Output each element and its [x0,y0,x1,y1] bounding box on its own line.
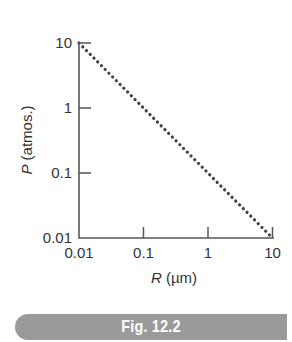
chart: 0.010.1110 0.010.1110 R (µm) P (atmos.) [0,0,292,310]
plot-area [79,43,273,238]
x-tick-label: 1 [204,244,212,261]
x-tick-label: 0.01 [64,244,93,261]
y-tick-label: 1 [64,99,72,116]
x-tick-label: 10 [264,244,281,261]
x-tick-label: 0.1 [133,244,154,261]
y-tick-label: 0.1 [51,164,72,181]
y-axis-label: P (atmos.) [18,105,35,174]
figure-caption: Fig. 12.2 [121,317,180,337]
y-ticks: 0.010.1110 [43,34,91,246]
x-ticks: 0.010.1110 [64,227,280,261]
y-tick-label: 10 [55,34,72,51]
figure-caption-banner: Fig. 12.2 [15,314,287,340]
data-series-line [79,43,273,238]
x-axis-label: R (µm) [151,269,197,286]
